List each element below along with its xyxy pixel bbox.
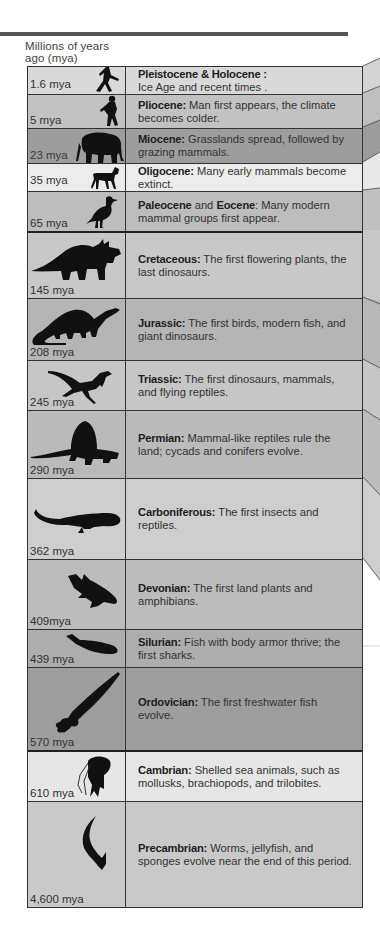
period-age-cell: 4,600 mya [28, 802, 126, 907]
period-description-cell: Triassic: The first dinosaurs, mammals, … [126, 361, 362, 410]
age-label: 23 mya [30, 149, 68, 161]
period-name: Pliocene: [138, 99, 186, 111]
period-description: Pliocene: Man first appears, the climate… [138, 99, 352, 125]
period-description: Cretaceous: The first flowering plants, … [138, 253, 352, 279]
period-row-cretaceous: 145 mya Cretaceous: The first flowering … [28, 231, 362, 298]
period-description: Paleocene and Eocene: Many modern mammal… [138, 199, 352, 225]
period-name: Cretaceous: [138, 253, 200, 265]
period-row-oligocene: 35 mya Oligocene: Many early mammals bec… [28, 163, 362, 191]
period-age-cell: 409mya [28, 560, 126, 629]
period-description: Pleistocene & Holocene : Ice Age and rec… [138, 68, 267, 94]
period-name: Permian: [138, 432, 184, 444]
period-description: Precambrian: Worms, jellyfish, and spong… [138, 842, 352, 868]
early-human-icon [100, 95, 122, 128]
period-age-cell: 208 mya [28, 299, 126, 360]
period-description-cell: Carboniferous: The first insects and rep… [126, 479, 362, 559]
period-description: Permian: Mammal-like reptiles rule the l… [138, 432, 352, 458]
period-age-cell: 1.6 mya [28, 67, 126, 94]
period-name: Devonian: [138, 582, 190, 594]
period-age-cell: 35 mya [28, 164, 126, 191]
period-row-pliocene: 5 mya Pliocene: Man first appears, the c… [28, 94, 362, 128]
period-description-cell: Silurian: Fish with body armor thrive; t… [126, 630, 362, 667]
age-label: 570 mya [30, 736, 74, 748]
period-name: Triassic: [138, 373, 182, 385]
running-man-icon [94, 67, 120, 94]
perspective-side-panel [363, 0, 380, 934]
nautiloid-icon [54, 672, 120, 736]
period-row-jurassic: 208 mya Jurassic: The first birds, moder… [28, 298, 362, 360]
period-age-cell: 5 mya [28, 95, 126, 128]
axis-label-line2: ago (mya) [25, 52, 109, 64]
period-name-2: Eocene [216, 199, 255, 211]
period-row-ordovician: 570 mya Ordovician: The first freshwater… [28, 667, 362, 750]
period-row-cambrian: 610 mya Cambrian: Shelled sea animals, s… [28, 750, 362, 801]
period-description: Silurian: Fish with body armor thrive; t… [138, 636, 352, 662]
period-name: Oligocene: [138, 165, 194, 177]
period-description: Jurassic: The first birds, modern fish, … [138, 317, 352, 343]
period-description: Miocene: Grasslands spread, followed by … [138, 133, 352, 159]
period-name: Jurassic: [138, 317, 185, 329]
period-name: Silurian: [138, 636, 181, 648]
jellyfish-icon [74, 755, 114, 799]
period-description: Devonian: The first land plants and amph… [138, 582, 352, 608]
period-age-cell: 65 mya [28, 192, 126, 231]
horse-icon [90, 165, 120, 191]
small-dinosaur-icon [48, 369, 114, 405]
age-label: 65 mya [30, 217, 68, 229]
period-name: Cambrian: [138, 764, 192, 776]
age-label: 35 mya [30, 174, 68, 186]
period-description-cell: Pliocene: Man first appears, the climate… [126, 95, 362, 128]
period-age-cell: 362 mya [28, 479, 126, 559]
period-name: Carboniferous: [138, 506, 215, 518]
axis-label: Millions of years ago (mya) [25, 40, 109, 64]
age-label: 145 mya [30, 284, 74, 296]
period-row-silurian: 439 mya Silurian: Fish with body armor t… [28, 629, 362, 667]
axis-label-line1: Millions of years [25, 40, 109, 52]
geologic-timescale-table: 1.6 mya Pleistocene & Holocene : Ice Age… [27, 66, 363, 908]
period-row-precambrian: 4,600 mya Precambrian: Worms, jellyfish,… [28, 801, 362, 907]
period-description-cell: Paleocene and Eocene: Many modern mammal… [126, 192, 362, 231]
age-label: 208 mya [30, 346, 74, 358]
dimetrodon-icon [31, 421, 121, 465]
period-age-cell: 145 mya [28, 233, 126, 298]
period-age-cell: 439 mya [28, 630, 126, 667]
triceratops-icon [31, 239, 123, 281]
period-text: Ice Age and recent times . [138, 81, 267, 93]
period-row-permian: 290 mya Permian: Mammal-like reptiles ru… [28, 410, 362, 478]
period-description: Carboniferous: The first insects and rep… [138, 506, 352, 532]
period-joiner: and [192, 199, 217, 211]
bird-icon [86, 194, 118, 230]
period-description: Triassic: The first dinosaurs, mammals, … [138, 373, 352, 399]
elephant-icon [76, 131, 126, 163]
age-label: 362 mya [30, 545, 74, 557]
period-age-cell: 570 mya [28, 668, 126, 750]
period-age-cell: 610 mya [28, 752, 126, 801]
age-label: 1.6 mya [30, 78, 71, 90]
period-name: Ordovician: [138, 696, 198, 708]
period-description-cell: Permian: Mammal-like reptiles rule the l… [126, 411, 362, 478]
period-row-paleocene-eocene: 65 mya Paleocene and Eocene: Many modern… [28, 191, 362, 231]
period-description-cell: Cretaceous: The first flowering plants, … [126, 233, 362, 298]
period-row-pleistocene: 1.6 mya Pleistocene & Holocene : Ice Age… [28, 67, 362, 94]
period-row-carboniferous: 362 mya Carboniferous: The first insects… [28, 478, 362, 559]
top-rule-divider [0, 32, 348, 36]
period-row-miocene: 23 mya Miocene: Grasslands spread, follo… [28, 128, 362, 163]
period-description-cell: Devonian: The first land plants and amph… [126, 560, 362, 629]
brontosaurus-icon [30, 305, 122, 347]
period-name: Miocene: [138, 133, 185, 145]
period-description: Ordovician: The first freshwater fish ev… [138, 696, 352, 722]
period-description-cell: Precambrian: Worms, jellyfish, and spong… [126, 802, 362, 907]
period-description-cell: Pleistocene & Holocene : Ice Age and rec… [126, 67, 362, 94]
amphibian-icon [34, 509, 122, 533]
period-description-cell: Miocene: Grasslands spread, followed by … [126, 129, 362, 163]
age-label: 290 mya [30, 464, 74, 476]
age-label: 409mya [30, 615, 71, 627]
period-row-triassic: 245 mya Triassic: The first dinosaurs, m… [28, 360, 362, 410]
period-description-cell: Oligocene: Many early mammals become ext… [126, 164, 362, 191]
period-row-devonian: 409mya Devonian: The first land plants a… [28, 559, 362, 629]
period-description: Oligocene: Many early mammals become ext… [138, 165, 352, 191]
period-age-cell: 23 mya [28, 129, 126, 163]
period-description-cell: Ordovician: The first freshwater fish ev… [126, 668, 362, 750]
period-description: Cambrian: Shelled sea animals, such as m… [138, 764, 352, 790]
period-age-cell: 245 mya [28, 361, 126, 410]
